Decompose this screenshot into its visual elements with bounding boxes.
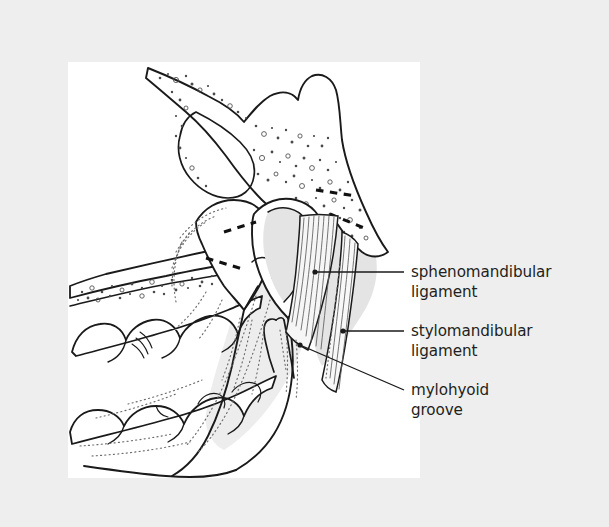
anatomy-figure-root: sphenomandibular ligament stylomandibula…	[0, 0, 609, 527]
label-sphenomandibular-line1: sphenomandibular	[411, 263, 552, 281]
leader-dot-sphenomandibular	[312, 269, 317, 274]
anatomy-illustration-svg: sphenomandibular ligament stylomandibula…	[0, 0, 609, 527]
label-mylohyoid-line1: mylohyoid	[411, 381, 489, 399]
leader-dot-mylohyoid	[297, 342, 302, 347]
label-sphenomandibular-line2: ligament	[411, 283, 477, 301]
label-stylomandibular-line2: ligament	[411, 342, 477, 360]
label-mylohyoid-line2: groove	[411, 401, 463, 419]
label-stylomandibular-line1: stylomandibular	[411, 322, 533, 340]
leader-dot-stylomandibular	[340, 328, 345, 333]
